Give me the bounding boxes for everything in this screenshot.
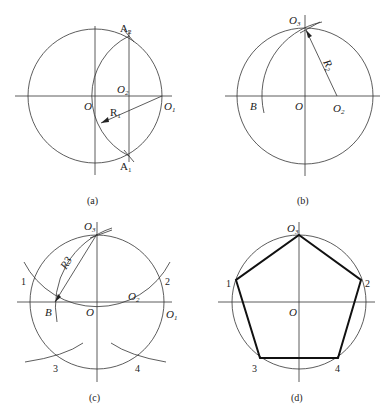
label-point-4: 4 <box>335 363 340 374</box>
label-point-2: 2 <box>365 278 370 289</box>
label-o3: O3 <box>287 222 299 236</box>
label-o2: O2 <box>117 83 129 97</box>
panel-d: O O3 1 2 3 4 (d) <box>218 222 375 404</box>
label-b: B <box>250 100 257 112</box>
panel-b: O O2 O3 B R2 (b) <box>225 14 380 207</box>
caption-b: (b) <box>297 195 309 207</box>
pentagon-construction-figure: O O1 O2 A2 A1 R1 (a) O O2 O3 B R2 (b) <box>0 0 389 416</box>
caption-a: (a) <box>87 195 98 207</box>
label-o2: O2 <box>128 290 140 304</box>
label-point-4: 4 <box>135 363 140 374</box>
r3-arc <box>55 228 112 322</box>
label-o3: O3 <box>84 220 96 234</box>
r2-arrowhead <box>306 30 312 38</box>
label-a1: A1 <box>120 160 132 174</box>
label-point-2: 2 <box>165 276 170 287</box>
label-point-1: 1 <box>21 276 26 287</box>
arc-3 <box>25 343 83 362</box>
label-r2: R2 <box>319 56 337 73</box>
arc-tick-o3 <box>300 22 320 33</box>
caption-c: (c) <box>89 392 100 404</box>
label-o1: O1 <box>164 100 175 114</box>
arc-4 <box>111 343 166 362</box>
label-o: O <box>84 100 92 112</box>
panel-c: O O1 O2 O3 B R3 1 2 3 4 (c) <box>17 220 177 404</box>
caption-d: (d) <box>291 392 303 404</box>
label-o1: O1 <box>166 308 177 322</box>
label-a2: A2 <box>120 22 132 36</box>
label-point-1: 1 <box>226 278 231 289</box>
r2-arc <box>262 22 322 113</box>
label-o: O <box>295 100 303 112</box>
label-point-3: 3 <box>252 363 257 374</box>
label-o: O <box>86 306 94 318</box>
r1-arrowhead <box>101 117 109 123</box>
label-o: O <box>289 306 297 318</box>
panel-a: O O1 O2 A2 A1 R1 (a) <box>15 22 175 207</box>
label-b: B <box>45 306 52 318</box>
label-o2: O2 <box>333 102 345 116</box>
label-r1: R1 <box>110 106 121 120</box>
label-point-3: 3 <box>53 363 58 374</box>
regular-pentagon <box>236 235 361 358</box>
label-o3: O3 <box>289 14 301 28</box>
